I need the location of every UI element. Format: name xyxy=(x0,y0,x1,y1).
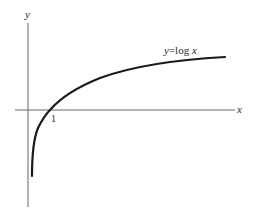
log-curve xyxy=(32,57,225,176)
equation-log: log xyxy=(175,44,192,56)
equation-var: x xyxy=(191,44,197,56)
tick-label-one: 1 xyxy=(51,113,56,124)
log-function-graph: y x 1 y=log x xyxy=(0,0,254,217)
curve-equation-label: y=log x xyxy=(163,44,197,56)
y-axis-label: y xyxy=(24,8,30,20)
x-axis-label: x xyxy=(236,103,242,115)
